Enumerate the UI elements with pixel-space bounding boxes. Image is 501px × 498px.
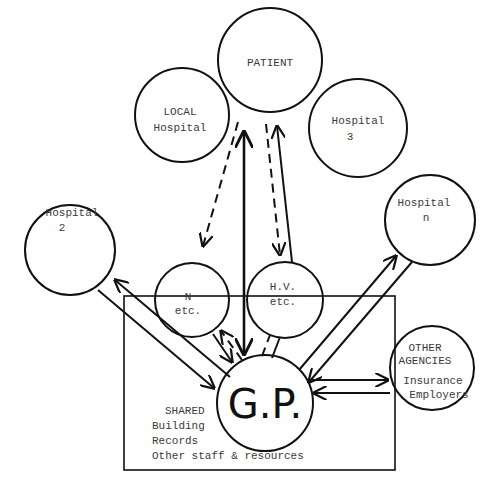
other-agencies-line4: Employers: [409, 389, 468, 401]
other-agencies-node: OTHER AGENCIES Insurance Employers: [390, 326, 474, 410]
local-hospital-line1: LOCAL: [163, 106, 196, 118]
patient-node: PATIENT: [218, 8, 322, 112]
shared-title: SHARED: [165, 405, 205, 417]
shared-item-records: Records: [152, 435, 198, 447]
other-agencies-line1: OTHER: [408, 342, 441, 354]
health-visitor-line2: etc.: [270, 296, 296, 308]
hospitaln-to-gp-line: [309, 262, 412, 382]
hospital-2-line2: 2: [59, 222, 66, 234]
health-visitor-line1: H.V.: [270, 281, 296, 293]
gp-to-nurse-dashed-arrow: [221, 331, 242, 360]
hospital-3-line1: Hospital: [332, 115, 385, 127]
nurse-node: N etc.: [155, 263, 229, 337]
local-hospital-node: LOCAL Hospital: [135, 68, 229, 162]
nurse-line1: N: [185, 291, 192, 303]
health-visitor-node: H.V. etc.: [247, 262, 323, 338]
gp-to-hospital2-line: [115, 280, 230, 377]
patient-label: PATIENT: [247, 57, 294, 69]
hv-patient-arrow: [277, 126, 292, 262]
nurse-to-gp-arrow: [213, 334, 232, 362]
hospital-n-line2: n: [423, 212, 430, 224]
gp-hv-line-2: [272, 337, 280, 358]
hospital-n-node: Hospital n: [385, 175, 475, 265]
nurse-line2: etc.: [175, 305, 201, 317]
hospital-3-line2: 3: [347, 131, 354, 143]
gp-hv-dashed-line-1: [262, 335, 270, 356]
local-hospital-line2: Hospital: [154, 122, 207, 134]
hospital-2-node: Hospital 2: [25, 205, 115, 295]
other-agencies-line3: Insurance: [403, 375, 462, 387]
gp-label: G.P.: [228, 381, 302, 427]
gp-relationships-diagram: PATIENT LOCAL Hospital Hospital 3 Hospit…: [0, 0, 501, 498]
hospital-2-line1: Hospital: [46, 207, 99, 219]
shared-item-other: Other staff & resources: [152, 450, 304, 462]
hospital-3-node: Hospital 3: [309, 79, 407, 177]
gp-to-hospitaln-line: [299, 256, 396, 370]
hospital-n-line1: Hospital: [398, 197, 451, 209]
patient-hv-dashed-arrow: [266, 124, 280, 255]
other-agencies-line2: AGENCIES: [399, 355, 452, 367]
shared-item-building: Building: [152, 420, 205, 432]
